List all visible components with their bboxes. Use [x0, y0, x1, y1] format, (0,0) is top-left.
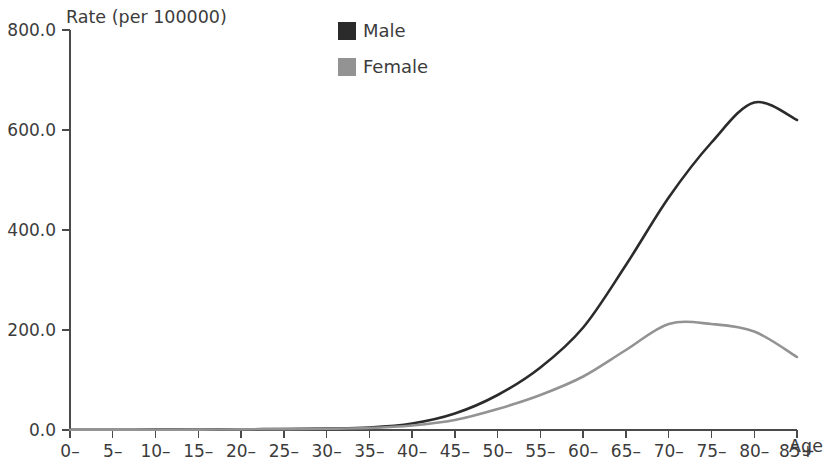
- legend-swatch-female: [338, 58, 356, 76]
- legend-label: Male: [363, 20, 406, 41]
- x-tick-label: 5–: [103, 441, 122, 460]
- x-tick-label: 50–: [483, 441, 513, 460]
- x-tick-label: 70–: [654, 441, 684, 460]
- y-axis-tick-labels: 0.0200.0400.0600.0800.0: [7, 20, 56, 440]
- x-tick-label: 80–: [739, 441, 769, 460]
- x-tick-label: 25–: [269, 441, 299, 460]
- chart-legend: MaleFemale: [338, 20, 428, 77]
- x-tick-label: 55–: [525, 441, 555, 460]
- x-axis-ticks: [70, 430, 797, 438]
- axes: [62, 30, 797, 438]
- x-tick-label: 65–: [611, 441, 641, 460]
- x-axis-title: Age: [789, 436, 823, 456]
- legend-label: Female: [363, 56, 428, 77]
- y-tick-label: 200.0: [7, 320, 56, 340]
- chart-container: 0.0200.0400.0600.0800.0 0–5–10–15–20–25–…: [0, 0, 829, 460]
- x-tick-label: 40–: [397, 441, 427, 460]
- series-line-male: [70, 102, 797, 430]
- x-tick-label: 35–: [354, 441, 384, 460]
- x-tick-label: 45–: [440, 441, 470, 460]
- y-tick-label: 400.0: [7, 220, 56, 240]
- line-chart: 0.0200.0400.0600.0800.0 0–5–10–15–20–25–…: [0, 0, 829, 460]
- x-tick-label: 60–: [568, 441, 598, 460]
- series-line-female: [70, 322, 797, 430]
- legend-item-male[interactable]: Male: [338, 20, 406, 41]
- x-tick-label: 0–: [60, 441, 79, 460]
- x-tick-label: 75–: [696, 441, 726, 460]
- y-axis-title: Rate (per 100000): [66, 7, 227, 27]
- x-axis-tick-labels: 0–5–10–15–20–25–30–35–40–45–50–55–60–65–…: [60, 441, 815, 460]
- y-tick-label: 0.0: [29, 420, 56, 440]
- legend-item-female[interactable]: Female: [338, 56, 428, 77]
- legend-swatch-male: [338, 22, 356, 40]
- x-tick-label: 20–: [226, 441, 256, 460]
- data-series-group: [70, 102, 797, 430]
- x-tick-label: 15–: [183, 441, 213, 460]
- x-tick-label: 30–: [312, 441, 342, 460]
- y-tick-label: 600.0: [7, 120, 56, 140]
- y-axis-ticks: [62, 30, 70, 430]
- x-tick-label: 10–: [140, 441, 170, 460]
- y-tick-label: 800.0: [7, 20, 56, 40]
